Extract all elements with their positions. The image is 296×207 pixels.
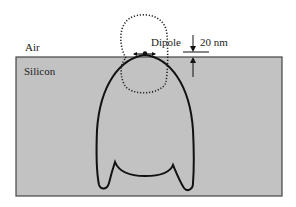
distance-label: 20 nm <box>200 37 228 48</box>
dipole-icon <box>133 51 156 56</box>
dipole-label: Dipole <box>151 37 181 48</box>
diagram-canvas <box>0 0 296 207</box>
air-label: Air <box>25 42 40 53</box>
silicon-label: Silicon <box>24 66 55 77</box>
